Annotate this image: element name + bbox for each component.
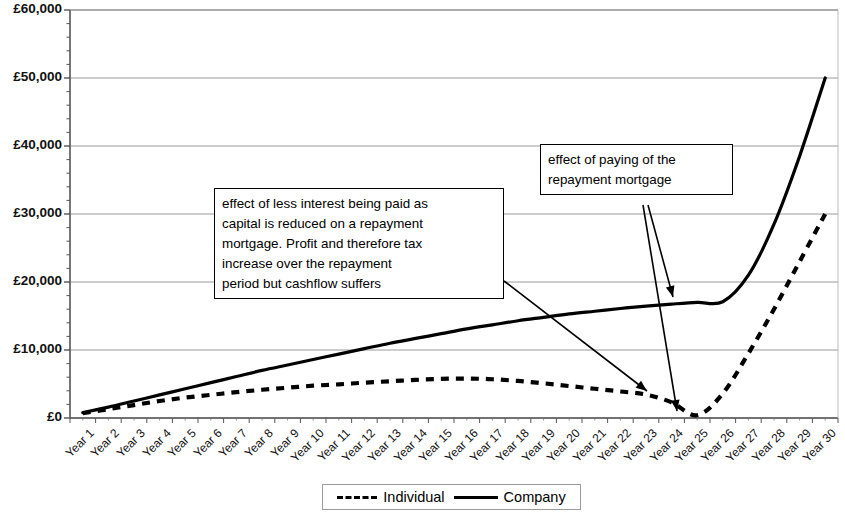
- legend-item-company: Company: [454, 489, 566, 505]
- y-tick-label: £30,000: [0, 205, 62, 220]
- annotation-leaders: [504, 205, 680, 411]
- annotation-interest-capital: effect of less interest being paid ascap…: [214, 188, 504, 299]
- legend-label-company: Company: [504, 489, 566, 505]
- annotation-line: capital is reduced on a repayment: [222, 214, 496, 234]
- y-tick-label: £50,000: [0, 69, 62, 84]
- legend-item-individual: Individual: [337, 489, 444, 505]
- chart-legend: Individual Company: [322, 484, 581, 510]
- annotation-line: effect of less interest being paid as: [222, 194, 496, 214]
- leader-arrow-interest-capital: [504, 281, 647, 391]
- solid-line-key: [454, 496, 498, 499]
- y-tick-label: £40,000: [0, 137, 62, 152]
- y-tick-label: £60,000: [0, 1, 62, 16]
- y-tick-label: £10,000: [0, 341, 62, 356]
- y-tick-label: £20,000: [0, 273, 62, 288]
- annotation-repayment-paid-off: effect of paying of therepayment mortgag…: [540, 144, 733, 195]
- legend-label-individual: Individual: [383, 489, 444, 505]
- y-tick-label: £0: [0, 409, 62, 424]
- annotation-line: period but cashflow suffers: [222, 274, 496, 294]
- dashed-line-key: [337, 496, 377, 499]
- annotation-line: effect of paying of the: [548, 150, 725, 170]
- leader-arrow-repayment-company: [648, 205, 674, 297]
- annotation-line: mortgage. Profit and therefore tax: [222, 234, 496, 254]
- chart-figure: £0£10,000£20,000£30,000£40,000£50,000£60…: [0, 0, 845, 514]
- annotation-line: increase over the repayment: [222, 254, 496, 274]
- leader-arrow-repayment-individual: [643, 205, 680, 411]
- annotation-line: repayment mortgage: [548, 170, 725, 190]
